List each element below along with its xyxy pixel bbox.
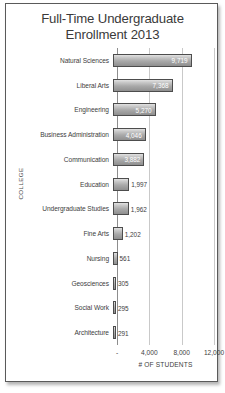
bar-value-label: 5,270: [136, 106, 152, 113]
category-label: Social Work: [6, 304, 113, 311]
bar-row: Engineering5,270: [6, 98, 214, 123]
bar[interactable]: 561: [113, 252, 118, 265]
category-label: Business Administration: [6, 131, 113, 138]
bar-track: 1,997: [113, 172, 214, 197]
bar[interactable]: 3,882: [113, 153, 144, 166]
bar[interactable]: 4,046: [113, 128, 146, 141]
bar-value-label: 291: [118, 329, 129, 336]
bar-value-label: 7,368: [153, 82, 169, 89]
category-label: Fine Arts: [6, 230, 113, 237]
bar-row: Business Administration4,046: [6, 122, 214, 147]
bar-value-label: 1,997: [131, 181, 147, 188]
bar-value-label: 295: [118, 304, 129, 311]
bar-track: 5,270: [113, 98, 214, 123]
bar[interactable]: 295: [113, 301, 116, 314]
bar-row: Education1,997: [6, 172, 214, 197]
x-tick-label: 12,000: [204, 349, 224, 356]
bar[interactable]: 291: [113, 326, 116, 339]
bar-value-label: 9,719: [172, 57, 188, 64]
bar-value-label: 3,882: [124, 156, 140, 163]
bar-track: 561: [113, 246, 214, 271]
bar-row: Fine Arts1,202: [6, 221, 214, 246]
bar-value-label: 1,962: [131, 205, 147, 212]
bar[interactable]: 305: [113, 277, 116, 290]
category-label: Architecture: [6, 329, 113, 336]
category-label: Undergraduate Studies: [6, 205, 113, 212]
bar-track: 1,202: [113, 221, 214, 246]
category-label: Nursing: [6, 255, 113, 262]
bar-track: 7,368: [113, 73, 214, 98]
bar-value-label: 561: [120, 255, 131, 262]
x-axis-title: # OF STUDENTS: [117, 361, 214, 368]
bar-row: Natural Sciences9,719: [6, 48, 214, 73]
bar-track: 295: [113, 296, 214, 321]
bar-track: 3,882: [113, 147, 214, 172]
category-label: Engineering: [6, 106, 113, 113]
x-axis-ticks: -4,0008,00012,000: [117, 349, 214, 359]
category-label: Education: [6, 181, 113, 188]
x-tick-label: 4,000: [141, 349, 158, 356]
bar-track: 4,046: [113, 122, 214, 147]
bar-row: Social Work295: [6, 296, 214, 321]
bar[interactable]: 1,997: [113, 178, 129, 191]
chart-title: Full-Time Undergraduate Enrollment 2013: [6, 11, 219, 42]
x-tick-label: 8,000: [173, 349, 190, 356]
bar[interactable]: 9,719: [113, 54, 192, 67]
bar-row: Architecture291: [6, 320, 214, 345]
bar-value-label: 305: [118, 280, 129, 287]
bar-track: 9,719: [113, 48, 214, 73]
plot-area: Natural Sciences9,719Liberal Arts7,368En…: [117, 48, 214, 345]
bar-row: Liberal Arts7,368: [6, 73, 214, 98]
bar-row: Communication3,882: [6, 147, 214, 172]
bar-row: Undergraduate Studies1,962: [6, 197, 214, 222]
bar[interactable]: 1,202: [113, 227, 123, 240]
bar[interactable]: 7,368: [113, 79, 173, 92]
category-label: Communication: [6, 156, 113, 163]
bar[interactable]: 5,270: [113, 103, 156, 116]
x-tick-label: -: [116, 349, 118, 356]
bar-track: 305: [113, 271, 214, 296]
bar-row: Geosciences305: [6, 271, 214, 296]
bar-track: 1,962: [113, 197, 214, 222]
chart-container: Full-Time Undergraduate Enrollment 2013 …: [5, 3, 218, 382]
category-label: Geosciences: [6, 280, 113, 287]
category-label: Liberal Arts: [6, 82, 113, 89]
bar-value-label: 4,046: [126, 131, 142, 138]
gridline: [214, 48, 215, 345]
bar-value-label: 1,202: [125, 230, 141, 237]
bar-track: 291: [113, 320, 214, 345]
bar-row: Nursing561: [6, 246, 214, 271]
category-label: Natural Sciences: [6, 57, 113, 64]
bar[interactable]: 1,962: [113, 202, 129, 215]
